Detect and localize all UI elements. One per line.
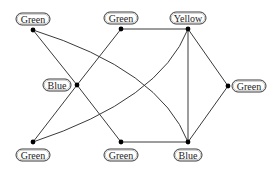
node-n4 [75, 83, 80, 88]
node-label-text: Green [109, 13, 133, 24]
edge-n5-n8 [188, 86, 228, 142]
node-label-n6: Green [16, 149, 50, 161]
edge-n4-n6 [33, 85, 77, 142]
node-n1 [31, 28, 36, 33]
node-label-text: Green [21, 14, 45, 25]
node-label-n3: Yellow [170, 12, 206, 24]
node-label-text: Blue [48, 80, 67, 91]
node-label-n2: Green [104, 12, 138, 24]
node-label-n7: Green [104, 149, 138, 161]
node-label-n1: Green [16, 13, 50, 25]
node-n3 [186, 27, 191, 32]
node-n6 [31, 140, 36, 145]
node-label-text: Green [21, 150, 45, 161]
edge-n3-n5 [188, 29, 228, 86]
node-n7 [119, 140, 124, 145]
node-label-text: Green [237, 81, 261, 92]
node-n8 [186, 140, 191, 145]
graph-diagram: GreenGreenYellowBlueGreenGreenGreenBlue [0, 0, 273, 172]
edge-n4-n7 [77, 85, 121, 142]
node-label-text: Green [109, 150, 133, 161]
node-label-text: Blue [179, 150, 198, 161]
edge-n2-n4 [77, 29, 121, 85]
node-n2 [119, 27, 124, 32]
node-label-text: Yellow [174, 13, 203, 24]
edge-n1-n4 [33, 30, 77, 85]
node-label-n5: Green [232, 80, 266, 92]
node-label-n4: Blue [43, 79, 71, 91]
node-n5 [226, 84, 231, 89]
node-label-n8: Blue [174, 149, 202, 161]
